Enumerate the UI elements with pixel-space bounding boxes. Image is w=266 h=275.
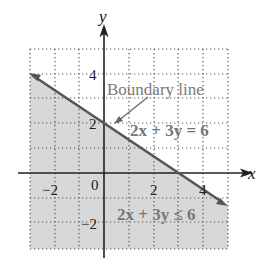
y-tick-2: 2 <box>89 116 97 132</box>
label-pointer <box>118 97 148 121</box>
x-axis-label: x <box>247 164 256 183</box>
equation-label: 2x + 3y = 6 <box>130 121 209 140</box>
boundary-line-label: Boundary line <box>107 80 204 99</box>
y-tick-4: 4 <box>89 67 97 83</box>
x-tick-2: 2 <box>150 182 158 198</box>
y-tick-neg2: −2 <box>81 216 97 232</box>
y-axis-label: y <box>97 7 107 26</box>
inequality-label: 2x + 3y ≤ 6 <box>117 205 196 224</box>
x-tick-neg2: −2 <box>42 182 58 198</box>
inequality-graph: y x 4 2 −2 −2 0 2 4 Boundary line 2x + 3… <box>0 0 266 275</box>
x-tick-0: 0 <box>91 177 99 193</box>
x-tick-4: 4 <box>199 182 207 198</box>
